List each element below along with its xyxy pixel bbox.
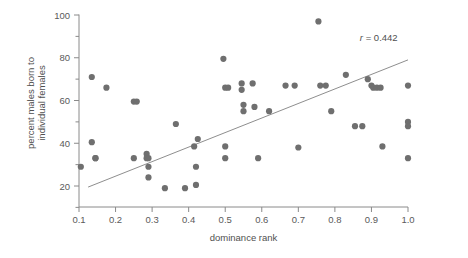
x-axis-title: dominance rank xyxy=(210,232,278,243)
x-tick-label: 0.8 xyxy=(328,214,341,225)
data-point xyxy=(222,155,228,161)
x-tick-label: 0.1 xyxy=(72,214,85,225)
data-point xyxy=(193,164,199,170)
x-tick-label: 0.9 xyxy=(365,214,378,225)
data-point xyxy=(328,108,334,114)
x-tick-label: 0.5 xyxy=(219,214,232,225)
data-point xyxy=(134,98,140,104)
data-points-group xyxy=(78,18,411,191)
data-point xyxy=(315,18,321,24)
data-point xyxy=(78,164,84,170)
data-point xyxy=(239,87,245,93)
data-point xyxy=(323,82,329,88)
x-tick-label: 0.4 xyxy=(182,214,195,225)
data-point xyxy=(182,185,188,191)
y-tick-label: 60 xyxy=(59,95,70,106)
y-tick-label: 20 xyxy=(59,181,70,192)
data-point xyxy=(405,155,411,161)
y-axis-title-line2: individual females xyxy=(36,65,47,141)
data-point xyxy=(240,102,246,108)
plot-canvas: 204060801000.10.20.30.40.50.60.70.80.91.… xyxy=(0,0,468,258)
data-point xyxy=(317,82,323,88)
y-tick-label: 100 xyxy=(54,10,70,21)
data-point xyxy=(365,76,371,82)
x-tick-label: 0.6 xyxy=(255,214,268,225)
data-point xyxy=(222,143,228,149)
data-point xyxy=(240,108,246,114)
data-point xyxy=(405,123,411,129)
data-point xyxy=(191,143,197,149)
y-tick-label: 80 xyxy=(59,52,70,63)
regression-line xyxy=(88,60,408,187)
x-tick-label: 0.3 xyxy=(146,214,159,225)
data-point xyxy=(145,155,151,161)
data-point xyxy=(251,104,257,110)
data-point xyxy=(379,143,385,149)
correlation-coefficient-label: r = 0.442 xyxy=(360,32,398,43)
data-point xyxy=(173,121,179,127)
data-point xyxy=(295,144,301,150)
data-point xyxy=(282,82,288,88)
data-point xyxy=(250,80,256,86)
data-point xyxy=(255,155,261,161)
data-point xyxy=(89,139,95,145)
x-tick-label: 1.0 xyxy=(401,214,414,225)
data-point xyxy=(145,174,151,180)
data-point xyxy=(266,108,272,114)
axes-group xyxy=(74,15,408,213)
data-point xyxy=(343,72,349,78)
trendline-group xyxy=(88,60,408,187)
y-tick-label: 40 xyxy=(59,138,70,149)
data-point xyxy=(377,85,383,91)
data-point xyxy=(92,155,98,161)
y-axis-title-line1: percent males born to xyxy=(25,57,36,149)
x-tick-label: 0.2 xyxy=(109,214,122,225)
data-point xyxy=(352,123,358,129)
data-point xyxy=(225,85,231,91)
data-point xyxy=(131,155,137,161)
data-point xyxy=(220,56,226,62)
data-point xyxy=(195,136,201,142)
data-point xyxy=(103,85,109,91)
data-point xyxy=(359,123,365,129)
data-point xyxy=(145,164,151,170)
x-tick-label: 0.7 xyxy=(292,214,305,225)
data-point xyxy=(405,82,411,88)
data-point xyxy=(89,74,95,80)
data-point xyxy=(162,185,168,191)
scatter-plot-figure: 204060801000.10.20.30.40.50.60.70.80.91.… xyxy=(0,0,468,258)
data-point xyxy=(239,80,245,86)
data-point xyxy=(292,82,298,88)
data-point xyxy=(193,182,199,188)
